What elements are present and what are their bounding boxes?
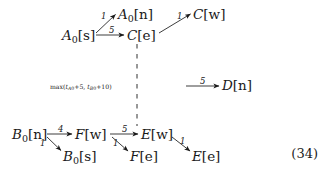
node-Dn-port: [n] bbox=[233, 77, 252, 93]
node-B0n-base: B bbox=[12, 126, 22, 142]
cond-mid: +5, bbox=[74, 83, 87, 90]
node-Fw: F[w] bbox=[75, 128, 106, 143]
node-A0n-base: A bbox=[118, 6, 128, 22]
dashed-edge-condition-label: max(tA0+5, tB0+10) bbox=[50, 84, 112, 92]
node-B0s-port: [s] bbox=[79, 148, 96, 164]
equation-number: (34) bbox=[291, 146, 318, 161]
node-Cw-port: [w] bbox=[203, 6, 225, 22]
edge-weight-A0s-A0n: 1 bbox=[101, 12, 106, 21]
node-A0n-port: [n] bbox=[134, 6, 153, 22]
node-Ce: C[e] bbox=[127, 29, 156, 44]
node-B0s: B0[s] bbox=[63, 150, 96, 165]
figure-canvas: A0[n] C[w] A0[s] C[e] D[n] B0[n] F[w] E[… bbox=[0, 0, 326, 172]
edge-weight-to-Dn: 5 bbox=[200, 77, 205, 86]
node-Fe-base: F bbox=[130, 148, 139, 164]
node-Dn-base: D bbox=[222, 77, 233, 93]
edge-Ce-to-Cw bbox=[159, 14, 191, 33]
node-A0s-base: A bbox=[62, 27, 72, 43]
edge-weight-Fw-Ew: 5 bbox=[122, 125, 127, 134]
node-Cw: C[w] bbox=[193, 8, 225, 23]
cond-prefix: max( bbox=[50, 83, 65, 90]
edge-weight-A0s-Ce: 5 bbox=[109, 26, 114, 35]
edge-weight-Ew-Ee: 1 bbox=[180, 137, 185, 146]
edge-weight-Fw-Fe: 1 bbox=[113, 139, 118, 148]
node-A0n: A0[n] bbox=[118, 8, 153, 23]
edge-weight-B0n-B0s: 1 bbox=[40, 139, 45, 148]
node-A0s-port: [s] bbox=[78, 27, 95, 43]
edge-weight-Ce-Cw: 1 bbox=[177, 12, 182, 21]
node-Fe: F[e] bbox=[130, 150, 158, 165]
node-Ee-base: E bbox=[192, 148, 202, 164]
node-Ew-port: [w] bbox=[151, 126, 173, 142]
node-Cw-base: C bbox=[193, 6, 203, 22]
node-Fw-base: F bbox=[75, 126, 84, 142]
node-Dn: D[n] bbox=[222, 79, 252, 94]
edge-weight-B0n-Fw: 4 bbox=[58, 125, 63, 134]
cond-suffix: +10) bbox=[96, 83, 111, 90]
graph-edges-layer bbox=[0, 0, 326, 172]
node-Fe-port: [e] bbox=[139, 148, 158, 164]
node-Ew: E[w] bbox=[141, 128, 173, 143]
node-A0s: A0[s] bbox=[62, 29, 95, 44]
node-Ee: E[e] bbox=[192, 150, 220, 165]
node-Ee-port: [e] bbox=[202, 148, 221, 164]
node-Ce-port: [e] bbox=[137, 27, 156, 43]
node-B0s-base: B bbox=[63, 148, 73, 164]
node-Ce-base: C bbox=[127, 27, 137, 43]
node-Fw-port: [w] bbox=[84, 126, 106, 142]
node-Ew-base: E bbox=[141, 126, 151, 142]
edge-B0n-to-B0s bbox=[47, 137, 61, 151]
